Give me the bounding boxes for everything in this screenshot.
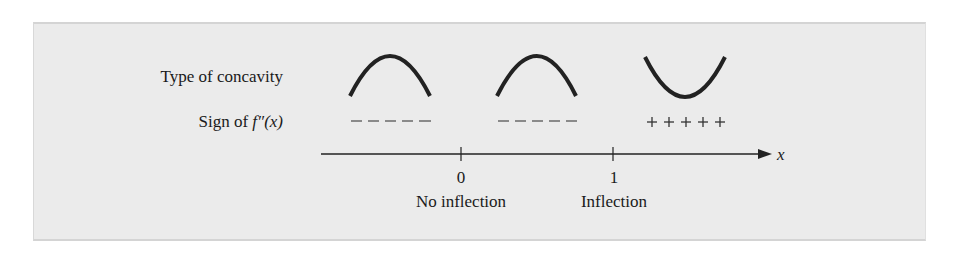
concave-down-icon: [350, 56, 430, 96]
tick-label-1: 1: [610, 169, 619, 186]
tick-caption-no-inflection: No inflection: [416, 193, 506, 210]
concavity-sign-chart: [0, 0, 963, 263]
concave-up-icon: [645, 57, 725, 97]
positive-sign-marks: [647, 117, 725, 127]
concave-down-icon: [497, 56, 576, 96]
arrow-right-icon: [758, 149, 772, 159]
tick-caption-inflection: Inflection: [581, 193, 647, 210]
tick-label-0: 0: [457, 169, 466, 186]
axis-variable-label: x: [777, 146, 785, 163]
